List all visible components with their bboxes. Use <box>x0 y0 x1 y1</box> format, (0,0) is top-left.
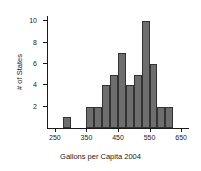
x-axis-tick-label: 250 <box>49 134 61 141</box>
y-axis-tick-label: 10 <box>29 17 37 24</box>
y-axis-tick: 2 <box>43 106 47 107</box>
histogram-bar <box>142 21 150 128</box>
x-axis-tick-label: 650 <box>175 134 187 141</box>
histogram-bar <box>126 85 134 128</box>
histogram-bar <box>157 107 165 128</box>
histogram-bar <box>150 64 158 128</box>
x-axis-tick-label: 450 <box>112 134 124 141</box>
histogram-bar <box>63 117 71 128</box>
y-axis-tick-label: 6 <box>33 60 37 67</box>
x-axis-tick: 650 <box>181 128 182 132</box>
y-axis-tick-label: 4 <box>33 81 37 88</box>
x-axis-title: Gallons per Capita 2004 <box>0 152 201 161</box>
y-axis-tick-label: 2 <box>33 102 37 109</box>
histogram-bar <box>165 107 173 128</box>
y-axis-tick: 4 <box>43 84 47 85</box>
x-axis-tick: 550 <box>150 128 151 132</box>
x-axis-tick-label: 350 <box>81 134 93 141</box>
histogram-bar <box>86 107 94 128</box>
histogram-bar <box>134 75 142 128</box>
histogram-bar <box>94 107 102 128</box>
y-axis-tick: 10 <box>43 20 47 21</box>
histogram-bar <box>118 53 126 128</box>
plot-area: 246810250350450550650 <box>47 16 189 128</box>
x-axis-tick-label: 550 <box>144 134 156 141</box>
y-axis-tick-label: 8 <box>33 38 37 45</box>
y-axis-title: # of States <box>15 54 24 90</box>
x-axis-tick: 450 <box>118 128 119 132</box>
y-axis-tick: 6 <box>43 63 47 64</box>
histogram-bar <box>102 85 110 128</box>
histogram-chart: 246810250350450550650 # of States Gallon… <box>0 0 201 171</box>
y-axis-tick: 8 <box>43 42 47 43</box>
x-axis-tick: 350 <box>86 128 87 132</box>
histogram-bar <box>110 75 118 128</box>
x-axis-tick: 250 <box>55 128 56 132</box>
